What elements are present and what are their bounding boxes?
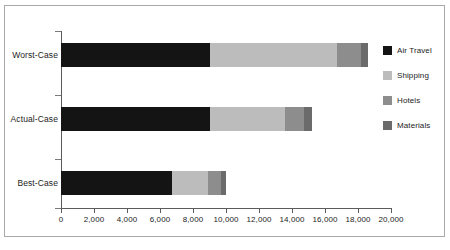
x-axis-tick-label: 14,000: [279, 215, 304, 224]
legend-item[interactable]: Hotels: [383, 93, 443, 107]
bar-segment[interactable]: [210, 107, 286, 131]
y-axis-tick: [55, 159, 61, 160]
legend-swatch-icon: [383, 121, 392, 130]
x-axis-tick-label: 6,000: [150, 215, 171, 224]
x-axis-tick: [61, 209, 62, 213]
legend-item[interactable]: Air Travel: [383, 43, 443, 57]
bar-segment[interactable]: [172, 171, 208, 195]
bar-segment[interactable]: [285, 107, 303, 131]
legend-label: Materials: [397, 121, 430, 130]
bar-row[interactable]: [0, 171, 450, 195]
chart-container: Worst-CaseActual-CaseBest-Case 02,0004,0…: [0, 0, 450, 250]
bar-segment[interactable]: [210, 43, 337, 67]
x-axis-tick-label: 8,000: [183, 215, 204, 224]
x-axis-tick-label: 16,000: [312, 215, 337, 224]
x-axis-tick-label: 18,000: [345, 215, 370, 224]
x-axis-tick: [160, 209, 161, 213]
bar-segment[interactable]: [337, 43, 362, 67]
legend-label: Shipping: [397, 71, 429, 80]
legend-label: Hotels: [397, 96, 420, 105]
x-axis-tick-label: 12,000: [246, 215, 271, 224]
legend-swatch-icon: [383, 71, 392, 80]
x-axis-tick-label: 10,000: [213, 215, 238, 224]
legend-swatch-icon: [383, 96, 392, 105]
x-axis-tick: [127, 209, 128, 213]
x-axis-tick: [358, 209, 359, 213]
legend-item[interactable]: Materials: [383, 118, 443, 132]
x-axis-tick-label: 4,000: [117, 215, 138, 224]
x-axis-tick-label: 0: [59, 215, 64, 224]
legend-item[interactable]: Shipping: [383, 68, 443, 82]
bar-segment[interactable]: [61, 171, 172, 195]
bar-segment[interactable]: [208, 171, 221, 195]
y-axis-tick: [55, 31, 61, 32]
x-axis-tick: [259, 209, 260, 213]
bar-segment[interactable]: [361, 43, 368, 67]
y-axis-tick: [55, 95, 61, 96]
legend-swatch-icon: [383, 46, 392, 55]
x-axis-tick: [226, 209, 227, 213]
x-axis-tick: [292, 209, 293, 213]
legend-label: Air Travel: [397, 46, 432, 55]
bar-segment[interactable]: [61, 43, 210, 67]
x-axis-tick-label: 20,000: [378, 215, 403, 224]
x-axis-tick: [391, 209, 392, 213]
chart-legend: Air TravelShippingHotelsMaterials: [383, 43, 443, 143]
x-axis-tick: [325, 209, 326, 213]
bar-segment[interactable]: [61, 107, 210, 131]
x-axis-tick-label: 2,000: [84, 215, 105, 224]
bar-segment[interactable]: [221, 171, 226, 195]
x-axis-tick: [193, 209, 194, 213]
x-axis-tick: [94, 209, 95, 213]
bar-segment[interactable]: [304, 107, 312, 131]
